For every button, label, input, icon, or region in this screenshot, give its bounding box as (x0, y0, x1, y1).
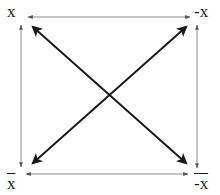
corner-label-bottom-right: -x (194, 175, 208, 192)
overlined-neg-x: -x (194, 174, 208, 193)
corner-label-top-left: x (7, 3, 16, 20)
overlined-x: x (7, 174, 16, 193)
diagram-svg (0, 0, 220, 195)
corner-label-bottom-left: x (7, 175, 16, 192)
diagram-canvas: x -x x -x (0, 0, 220, 195)
corner-label-top-right: -x (194, 3, 208, 20)
